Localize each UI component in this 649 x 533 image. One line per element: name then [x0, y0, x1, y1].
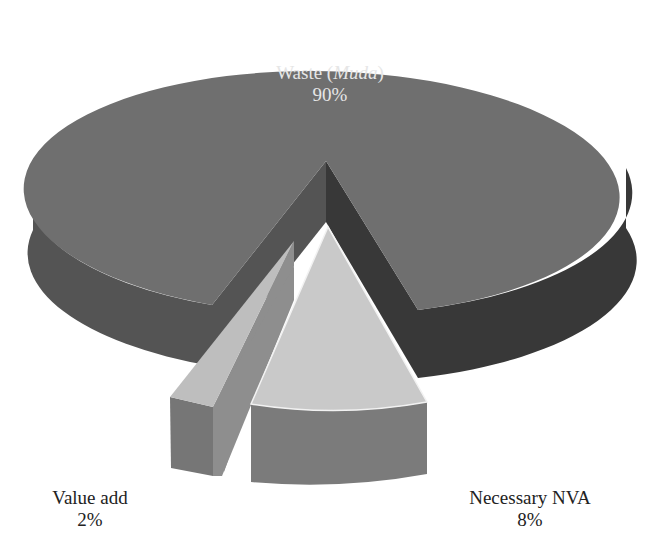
- label-nva-value: 8%: [430, 509, 630, 531]
- label-value-add: Value add 2%: [20, 487, 160, 531]
- label-waste-value: 90%: [230, 84, 430, 106]
- label-necessary-nva: Necessary NVA 8%: [430, 487, 630, 531]
- label-va-name: Value add: [20, 487, 160, 509]
- va-front: [170, 397, 213, 476]
- label-waste-italic: Muda: [333, 62, 377, 83]
- label-waste-name: Waste (: [276, 62, 333, 83]
- label-va-value: 2%: [20, 509, 160, 531]
- label-waste-close: ): [378, 62, 384, 83]
- nva-front: [251, 402, 427, 485]
- label-waste: Waste (Muda) 90%: [230, 62, 430, 106]
- label-nva-name: Necessary NVA: [430, 487, 630, 509]
